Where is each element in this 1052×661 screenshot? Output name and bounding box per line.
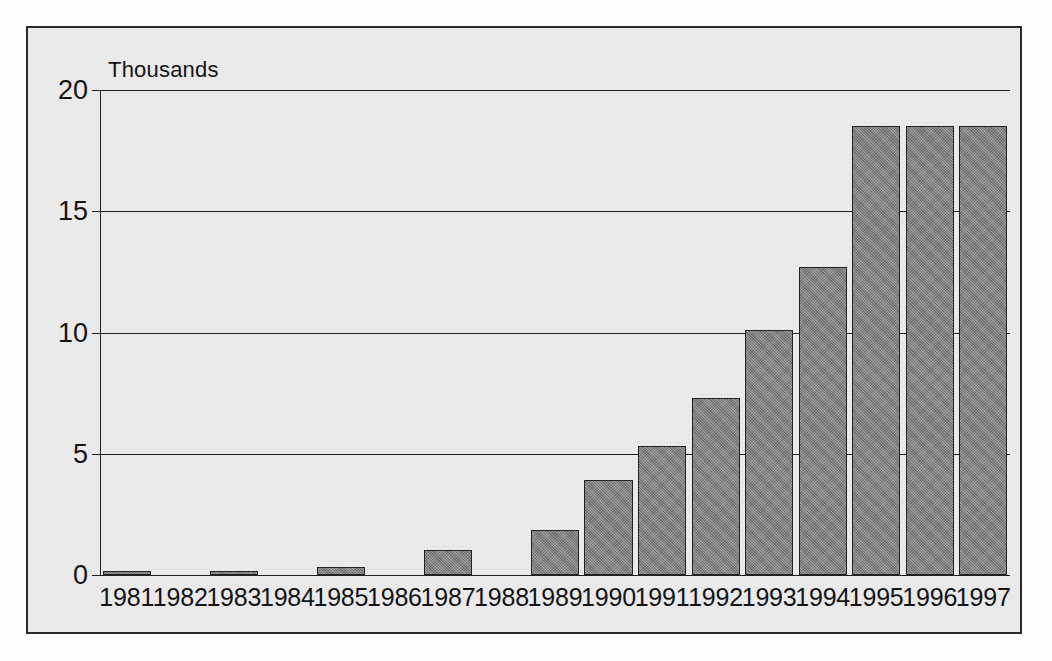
x-axis-tick-label: 1993	[742, 585, 797, 610]
y-axis-tick	[92, 90, 101, 91]
x-axis-tick-label: 1997	[956, 585, 1011, 610]
x-axis-tick-label: 1983	[206, 585, 261, 610]
y-axis-line	[100, 90, 101, 575]
bar	[531, 530, 579, 575]
bar	[103, 571, 151, 575]
x-axis-tick-label: 1991	[635, 585, 690, 610]
gridline	[100, 575, 1010, 576]
x-axis-tick-label: 1986	[367, 585, 422, 610]
y-axis-tick	[92, 211, 101, 212]
y-axis-unit-label: Thousands	[108, 57, 219, 83]
x-axis-tick-label: 1994	[795, 585, 850, 610]
y-axis-tick-label: 20	[58, 77, 88, 104]
bar	[799, 267, 847, 575]
x-axis-tick-label: 1990	[581, 585, 636, 610]
x-axis-tick-label: 1995	[849, 585, 904, 610]
plot-area	[100, 90, 1010, 575]
x-axis-tick-label: 1985	[313, 585, 368, 610]
bar	[959, 126, 1007, 575]
chart-figure: Thousands 05101520 198119821983198419851…	[0, 0, 1052, 661]
bar	[210, 571, 258, 575]
y-axis-tick-label: 15	[58, 198, 88, 225]
y-axis-tick	[92, 454, 101, 455]
x-axis-tick-label: 1982	[153, 585, 208, 610]
x-axis-tick-label: 1987	[421, 585, 476, 610]
gridline	[100, 90, 1010, 91]
y-axis-tick-labels: 05101520	[40, 90, 88, 575]
y-axis-tick-label: 0	[73, 562, 88, 589]
bar	[638, 446, 686, 575]
x-axis-tick-label: 1984	[260, 585, 315, 610]
bar	[317, 567, 365, 575]
bar	[692, 398, 740, 575]
bar	[424, 550, 472, 575]
x-axis-tick-label: 1996	[902, 585, 957, 610]
bar	[906, 126, 954, 575]
x-axis-tick-label: 1981	[99, 585, 154, 610]
y-axis-tick	[92, 333, 101, 334]
x-axis-tick-labels: 1981198219831984198519861987198819891990…	[100, 585, 1010, 625]
x-axis-tick-label: 1988	[474, 585, 529, 610]
x-axis-tick-label: 1992	[688, 585, 743, 610]
x-axis-tick-label: 1989	[528, 585, 583, 610]
bar	[584, 480, 632, 575]
y-axis-tick	[92, 575, 101, 576]
bar	[745, 330, 793, 575]
y-axis-tick-label: 10	[58, 319, 88, 346]
bar	[852, 126, 900, 575]
y-axis-tick-label: 5	[73, 440, 88, 467]
